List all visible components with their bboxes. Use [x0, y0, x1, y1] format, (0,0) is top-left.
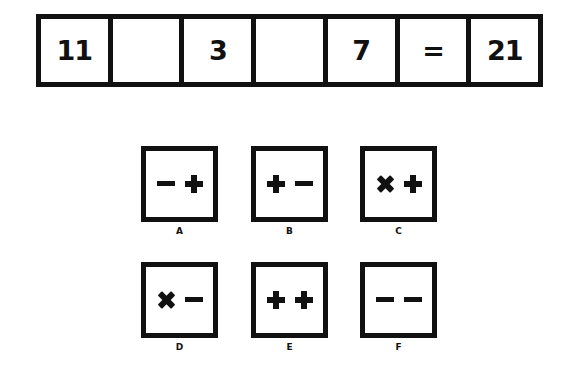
option-c[interactable]: C: [360, 146, 437, 238]
option-f-tile[interactable]: [360, 262, 437, 338]
option-c-label: C: [360, 226, 437, 236]
plus-icon: [404, 175, 422, 193]
plus-icon: [185, 175, 203, 193]
minus-icon: [157, 175, 175, 193]
number-cell-2: 3: [184, 19, 256, 82]
plus-icon: [267, 291, 285, 309]
option-d-tile[interactable]: [141, 262, 218, 338]
option-d[interactable]: D: [141, 262, 218, 354]
plus-icon: [267, 175, 285, 193]
option-a[interactable]: A: [141, 146, 218, 238]
plus-icon: [295, 291, 313, 309]
option-a-tile[interactable]: [141, 146, 218, 222]
option-e-tile[interactable]: [251, 262, 328, 338]
operator-slot-1[interactable]: [113, 19, 185, 82]
option-f-label: F: [360, 342, 437, 352]
number-cell-1: 11: [41, 19, 113, 82]
option-d-label: D: [141, 342, 218, 352]
option-c-tile[interactable]: [360, 146, 437, 222]
minus-icon: [404, 291, 422, 309]
minus-icon: [376, 291, 394, 309]
minus-icon: [185, 291, 203, 309]
times-icon: [157, 291, 175, 309]
option-e-label: E: [251, 342, 328, 352]
option-a-label: A: [141, 226, 218, 236]
equals-cell: =: [400, 19, 472, 82]
number-cell-3: 7: [328, 19, 400, 82]
equation-row: 11 3 7 = 21: [36, 14, 543, 87]
option-b-tile[interactable]: [251, 146, 328, 222]
option-b[interactable]: B: [251, 146, 328, 238]
option-e[interactable]: E: [251, 262, 328, 354]
option-f[interactable]: F: [360, 262, 437, 354]
minus-icon: [295, 175, 313, 193]
result-cell: 21: [471, 19, 538, 82]
operator-slot-2[interactable]: [256, 19, 328, 82]
times-icon: [376, 175, 394, 193]
option-b-label: B: [251, 226, 328, 236]
